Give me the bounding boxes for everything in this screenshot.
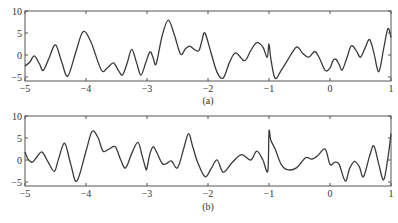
y-tick-label: −5 (11, 177, 22, 188)
x-tick-label: 1 (389, 188, 394, 199)
signal-curve-a (25, 20, 391, 78)
x-tick-labels-a: −5−4−3−2−101 (20, 83, 394, 94)
panel-label-a: (a) (202, 95, 213, 107)
figure: 1050−5 −5−4−3−2−101 (a) 1050−5 −5−4−3−2−… (0, 0, 398, 223)
plot-panel-a: 1050−5 −5−4−3−2−101 (a) (11, 6, 393, 108)
x-tick-labels-b: −5−4−3−2−101 (20, 188, 394, 199)
x-tick-label: −1 (264, 188, 275, 199)
x-tick-label: 1 (389, 83, 394, 94)
x-tick-label: −2 (203, 83, 214, 94)
signal-curve-b (25, 130, 391, 181)
y-tick-label: 0 (17, 155, 22, 166)
y-tick-label: 5 (17, 133, 22, 144)
y-tick-labels-a: 1050−5 (11, 6, 22, 83)
y-tick-label: 10 (12, 111, 22, 122)
x-tick-label: −5 (20, 188, 31, 199)
y-tick-labels-b: 1050−5 (11, 111, 22, 188)
y-tick-label: 0 (17, 50, 22, 61)
x-tick-label: −2 (203, 188, 214, 199)
panel-label-b: (b) (202, 201, 214, 213)
x-tick-label: 0 (328, 83, 333, 94)
y-tick-label: 5 (17, 28, 22, 39)
y-tick-label: 10 (12, 6, 22, 17)
x-tick-label: 0 (328, 188, 333, 199)
x-tick-label: −3 (142, 83, 153, 94)
x-tick-label: −4 (81, 188, 92, 199)
x-tick-label: −5 (20, 83, 31, 94)
tick-marks-a (25, 11, 391, 81)
x-tick-label: −1 (264, 83, 275, 94)
axes-frame-a (25, 11, 391, 81)
y-tick-label: −5 (11, 72, 22, 83)
plot-panel-b: 1050−5 −5−4−3−2−101 (b) (11, 111, 393, 214)
x-tick-label: −4 (81, 83, 92, 94)
x-tick-label: −3 (142, 188, 153, 199)
